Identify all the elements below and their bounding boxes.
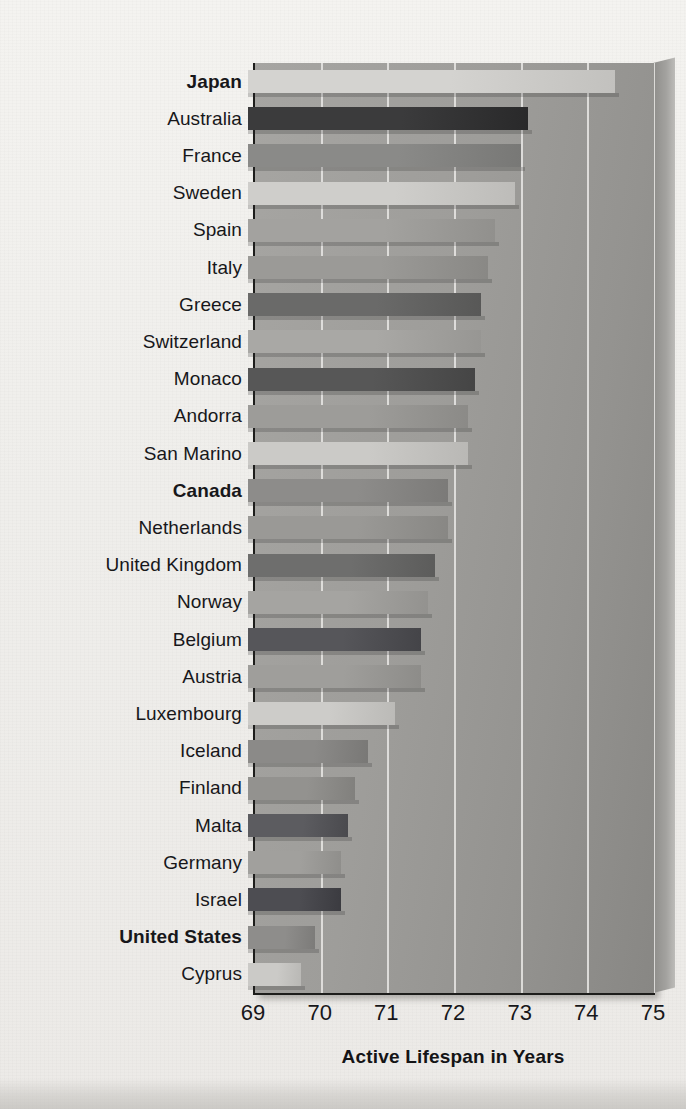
bar-label-australia: Australia — [40, 108, 248, 130]
bar-label-san-marino: San Marino — [40, 443, 248, 465]
bar-row[interactable]: Japan — [40, 63, 686, 100]
bar-row[interactable]: France — [40, 137, 686, 174]
bar-belgium[interactable] — [248, 628, 421, 651]
bar-label-germany: Germany — [40, 852, 248, 874]
bar-iceland[interactable] — [248, 740, 368, 763]
bar-canada[interactable] — [248, 479, 448, 502]
bar-label-france: France — [40, 145, 248, 167]
bar-label-austria: Austria — [40, 666, 248, 688]
bar-row[interactable]: Monaco — [40, 361, 686, 398]
bar-netherlands[interactable] — [248, 516, 448, 539]
bar-label-united-states: United States — [40, 926, 248, 948]
bar-label-norway: Norway — [40, 591, 248, 613]
bar-track — [248, 435, 686, 472]
bar-row[interactable]: Iceland — [40, 733, 686, 770]
bar-row[interactable]: Belgium — [40, 621, 686, 658]
bar-andorra[interactable] — [248, 405, 468, 428]
bar-track — [248, 286, 686, 323]
bar-row[interactable]: Luxembourg — [40, 695, 686, 732]
x-tick-label-75: 75 — [641, 1000, 665, 1026]
bar-label-spain: Spain — [40, 219, 248, 241]
bar-track — [248, 323, 686, 360]
x-tick-label-71: 71 — [374, 1000, 398, 1026]
bar-label-luxembourg: Luxembourg — [40, 703, 248, 725]
bar-track — [248, 472, 686, 509]
bar-finland[interactable] — [248, 777, 355, 800]
bar-row[interactable]: Italy — [40, 249, 686, 286]
bar-row[interactable]: Canada — [40, 472, 686, 509]
bar-track — [248, 63, 686, 100]
bar-row[interactable]: Malta — [40, 807, 686, 844]
bar-row[interactable]: Germany — [40, 844, 686, 881]
bar-monaco[interactable] — [248, 368, 475, 391]
bar-track — [248, 361, 686, 398]
bar-track — [248, 956, 686, 993]
bar-luxembourg[interactable] — [248, 702, 395, 725]
bar-greece[interactable] — [248, 293, 481, 316]
bar-austria[interactable] — [248, 665, 421, 688]
bar-row[interactable]: Spain — [40, 212, 686, 249]
bar-united-kingdom[interactable] — [248, 554, 435, 577]
bar-track — [248, 770, 686, 807]
bar-track — [248, 733, 686, 770]
bar-row[interactable]: Andorra — [40, 398, 686, 435]
bar-rows: JapanAustraliaFranceSwedenSpainItalyGree… — [40, 63, 686, 993]
bar-row[interactable]: Norway — [40, 584, 686, 621]
bar-italy[interactable] — [248, 256, 488, 279]
bar-label-israel: Israel — [40, 889, 248, 911]
bar-track — [248, 175, 686, 212]
bar-france[interactable] — [248, 144, 521, 167]
bar-united-states[interactable] — [248, 926, 315, 949]
bar-switzerland[interactable] — [248, 330, 481, 353]
bar-label-belgium: Belgium — [40, 629, 248, 651]
bar-track — [248, 398, 686, 435]
bar-row[interactable]: Sweden — [40, 175, 686, 212]
bar-norway[interactable] — [248, 591, 428, 614]
bar-australia[interactable] — [248, 107, 528, 130]
bar-row[interactable]: United Kingdom — [40, 547, 686, 584]
bar-label-switzerland: Switzerland — [40, 331, 248, 353]
bar-row[interactable]: Australia — [40, 100, 686, 137]
active-lifespan-bar-chart: JapanAustraliaFranceSwedenSpainItalyGree… — [40, 16, 646, 1093]
bar-row[interactable]: Finland — [40, 770, 686, 807]
bar-spain[interactable] — [248, 219, 495, 242]
x-tick-label-73: 73 — [507, 1000, 531, 1026]
bar-san-marino[interactable] — [248, 442, 468, 465]
bar-label-iceland: Iceland — [40, 740, 248, 762]
bar-cyprus[interactable] — [248, 963, 301, 986]
bar-track — [248, 137, 686, 174]
bar-row[interactable]: San Marino — [40, 435, 686, 472]
bar-row[interactable]: Israel — [40, 881, 686, 918]
bar-row[interactable]: Greece — [40, 286, 686, 323]
bar-label-canada: Canada — [40, 480, 248, 502]
bar-japan[interactable] — [248, 70, 615, 93]
bar-malta[interactable] — [248, 814, 348, 837]
bar-israel[interactable] — [248, 888, 341, 911]
x-axis-tick-labels: 69707172737475 — [40, 1000, 686, 1030]
bar-row[interactable]: Cyprus — [40, 956, 686, 993]
bar-sweden[interactable] — [248, 182, 515, 205]
bar-track — [248, 100, 686, 137]
bar-label-malta: Malta — [40, 815, 248, 837]
bar-row[interactable]: United States — [40, 919, 686, 956]
bar-track — [248, 509, 686, 546]
bar-track — [248, 695, 686, 732]
x-axis-title: Active Lifespan in Years — [253, 1046, 653, 1068]
bar-row[interactable]: Austria — [40, 658, 686, 695]
bar-label-netherlands: Netherlands — [40, 517, 248, 539]
bar-label-united-kingdom: United Kingdom — [40, 554, 248, 576]
bar-label-cyprus: Cyprus — [40, 963, 248, 985]
bar-germany[interactable] — [248, 851, 341, 874]
x-tick-label-72: 72 — [441, 1000, 465, 1026]
x-tick-label-70: 70 — [307, 1000, 331, 1026]
bar-track — [248, 249, 686, 286]
bar-row[interactable]: Switzerland — [40, 323, 686, 360]
bar-track — [248, 881, 686, 918]
bar-label-greece: Greece — [40, 294, 248, 316]
bar-track — [248, 658, 686, 695]
bar-track — [248, 844, 686, 881]
bar-track — [248, 547, 686, 584]
bar-label-japan: Japan — [40, 71, 248, 93]
bar-label-finland: Finland — [40, 777, 248, 799]
bar-row[interactable]: Netherlands — [40, 509, 686, 546]
